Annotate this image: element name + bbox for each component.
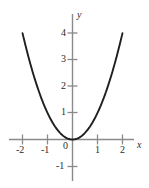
y-axis-label: y <box>77 10 81 20</box>
y-tick-label-4: 4 <box>61 28 66 38</box>
x-tick-label-neg1: -1 <box>41 145 49 155</box>
y-tick-label-neg1: -1 <box>56 161 64 171</box>
x-tick-label-neg2: -2 <box>16 145 24 155</box>
x-tick-label-pos2: 2 <box>120 145 125 155</box>
parabola-plot <box>0 0 149 188</box>
y-tick-label-1: 1 <box>61 107 66 117</box>
origin-label: 0 <box>63 141 68 151</box>
graph-figure: -2 -1 1 2 0 -1 1 2 3 4 y x <box>0 0 149 188</box>
y-tick-label-2: 2 <box>61 81 66 91</box>
y-tick-label-3: 3 <box>61 54 66 64</box>
x-axis-label: x <box>137 140 141 150</box>
x-tick-label-pos1: 1 <box>95 145 100 155</box>
